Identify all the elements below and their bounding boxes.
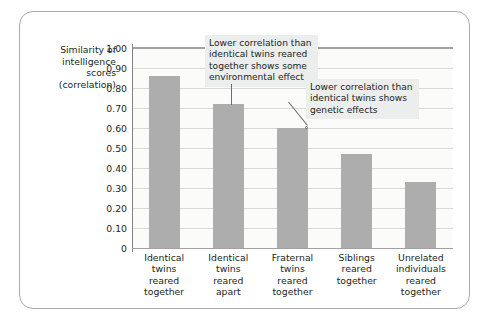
y-tick-label: 0.60 [95,124,127,133]
annotation-environmental-effect: Lower correlation than identical twins r… [205,35,318,87]
y-tick-label: 0.40 [95,164,127,173]
y-tick-label: 1.00 [95,44,127,53]
x-axis-line [132,248,453,249]
x-category-label-line: Fraternal [260,252,324,263]
x-category-label-line: twins [260,263,324,274]
bar-unrelated-individuals-reared-together [405,182,436,248]
annotation-leader-line-1 [231,84,232,105]
x-category-label-line: Identical [132,252,196,263]
chart-figure: Similarity of intelligence scores (corre… [0,0,489,324]
x-category-label: Identical twins reared apart [196,252,260,297]
x-category-label-line: twins [132,263,196,274]
y-tick-label: 0.10 [95,224,127,233]
y-tick-label: 0.30 [95,184,127,193]
x-axis-category-labels: Identical twins reared together Identica… [132,252,453,304]
x-category-label: Unrelated individuals reared together [389,252,453,297]
x-category-label-line: Unrelated [389,252,453,263]
y-tick-label: 0 [95,244,127,253]
y-axis-line [132,44,133,252]
x-category-label: Identical twins reared together [132,252,196,297]
bar-siblings-reared-together [341,154,372,248]
x-category-label-line: reared [132,275,196,286]
x-category-label-line: together [260,286,324,297]
x-category-label-line: twins [196,263,260,274]
x-category-label-line: individuals [389,263,453,274]
y-tick-label: 0.80 [95,84,127,93]
x-category-label-line: reared [325,263,389,274]
x-category-label-line: together [325,275,389,286]
x-category-label-line: reared [260,275,324,286]
bar-fraternal-twins-reared-together [277,128,308,248]
bar-identical-twins-reared-together [149,76,180,248]
y-tick-label: 0.20 [95,204,127,213]
annotation-genetic-effects: Lower correlation than identical twins s… [306,79,419,119]
y-tick-label: 0.90 [95,64,127,73]
x-category-label: Siblings reared together [325,252,389,286]
x-category-label-line: reared [389,275,453,286]
y-axis-tick-labels: 1.00 0.90 0.80 0.70 0.60 0.50 0.40 0.30 … [95,44,127,254]
x-category-label: Fraternal twins reared together [260,252,324,297]
x-category-label-line: together [132,286,196,297]
y-tick-label: 0.70 [95,104,127,113]
x-category-label-line: apart [196,286,260,297]
y-tick-label: 0.50 [95,144,127,153]
x-category-label-line: together [389,286,453,297]
bar-identical-twins-reared-apart [213,104,244,248]
x-category-label-line: Identical [196,252,260,263]
x-category-label-line: reared [196,275,260,286]
x-category-label-line: Siblings [325,252,389,263]
